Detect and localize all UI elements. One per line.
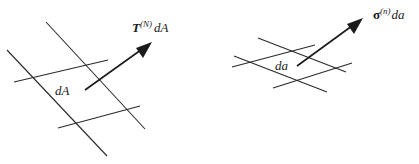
grid-line xyxy=(258,38,346,72)
arrowhead-icon xyxy=(136,42,152,58)
arrowhead-icon xyxy=(347,18,363,34)
stress-label: σ(n)da xyxy=(373,7,405,21)
area-label-dA: dA xyxy=(55,84,69,97)
traction-suffix: dA xyxy=(154,20,168,35)
current-area-grid xyxy=(232,38,352,92)
grid-line xyxy=(232,45,315,67)
traction-superscript: (N) xyxy=(140,19,152,29)
grid-line xyxy=(46,22,145,129)
stress-vector-arrow xyxy=(297,18,363,66)
traction-symbol: T xyxy=(132,20,140,35)
grid-line xyxy=(7,50,107,156)
reference-area-grid xyxy=(7,22,145,156)
grid-line xyxy=(14,60,108,82)
stress-superscript: (n) xyxy=(380,6,391,16)
traction-label: T(N)dA xyxy=(132,20,168,34)
stress-suffix: da xyxy=(392,7,405,22)
traction-vector-arrow xyxy=(85,42,152,90)
diagram-canvas xyxy=(0,0,419,164)
area-label-da: da xyxy=(275,59,288,72)
